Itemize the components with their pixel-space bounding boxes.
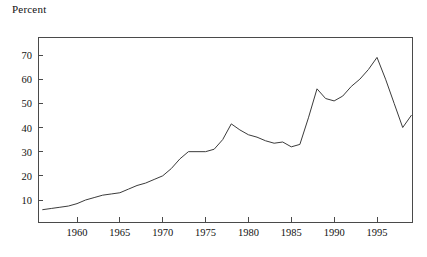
line-chart-plot: 10203040506070 1960196519701975198019851… xyxy=(0,0,427,257)
x-tick-label: 1970 xyxy=(152,227,173,238)
chart-figure: Percent 10203040506070 19601965197019751… xyxy=(0,0,427,257)
data-series-group xyxy=(43,57,412,209)
x-tick-label: 1965 xyxy=(109,227,130,238)
x-tick-label: 1960 xyxy=(67,227,88,238)
x-tick-label: 1975 xyxy=(195,227,216,238)
y-tick-label: 30 xyxy=(22,147,33,158)
y-tick-label: 50 xyxy=(22,98,33,109)
y-tick-label: 40 xyxy=(22,123,33,134)
y-axis-ticks: 10203040506070 xyxy=(22,50,44,206)
y-tick-label: 10 xyxy=(22,195,33,206)
x-tick-label: 1985 xyxy=(281,227,302,238)
y-tick-label: 70 xyxy=(22,50,33,61)
x-tick-label: 1995 xyxy=(367,227,388,238)
axis-box xyxy=(38,37,412,222)
y-tick-label: 20 xyxy=(22,171,33,182)
y-tick-label: 60 xyxy=(22,74,33,85)
data-line-percent xyxy=(43,57,412,209)
x-axis-ticks: 19601965197019751980198519901995 xyxy=(67,217,388,238)
x-tick-label: 1990 xyxy=(324,227,345,238)
x-tick-label: 1980 xyxy=(238,227,259,238)
